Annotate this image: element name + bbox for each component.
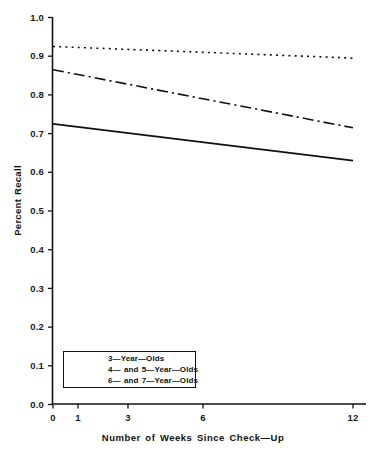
x-axis-title: Number of Weeks Since Check—Up: [0, 432, 386, 443]
legend-item-6-and-7-year-olds: 6— and 7—Year—Olds: [64, 375, 197, 386]
x-tick-label: 0: [41, 412, 65, 423]
legend-label: 4— and 5—Year—Olds: [108, 365, 198, 374]
series-line-4-and-5-year-olds: [53, 70, 353, 128]
plot-area: [0, 0, 386, 459]
chart-figure: 1.0 0.9 0.8 0.7 0.6 0.5 0.4 0.3 0.2 0.1 …: [0, 0, 386, 459]
y-axis-title: Percent Recall: [12, 156, 23, 246]
series-line-3-year-olds: [53, 124, 353, 161]
legend-label: 3—Year—Olds: [108, 354, 164, 363]
legend-label: 6— and 7—Year—Olds: [108, 376, 198, 385]
y-tick-label: 0.9: [18, 50, 44, 61]
legend: 3—Year—Olds 4— and 5—Year—Olds 6— and 7—…: [63, 351, 196, 388]
y-tick-label: 0.8: [18, 89, 44, 100]
x-tick-label: 3: [116, 412, 140, 423]
y-tick-label: 0.1: [18, 360, 44, 371]
y-tick-label: 1.0: [18, 12, 44, 23]
x-tick-label: 1: [66, 412, 90, 423]
legend-item-4-and-5-year-olds: 4— and 5—Year—Olds: [64, 364, 197, 375]
y-tick-label: 0.2: [18, 321, 44, 332]
series-line-6-and-7-year-olds: [53, 47, 353, 59]
x-tick-label: 6: [191, 412, 215, 423]
x-tick-label: 12: [341, 412, 365, 423]
y-tick-label: 0.0: [18, 399, 44, 410]
y-tick-label: 0.4: [18, 244, 44, 255]
y-tick-label: 0.3: [18, 283, 44, 294]
legend-item-3-year-olds: 3—Year—Olds: [64, 353, 197, 364]
y-tick-label: 0.7: [18, 128, 44, 139]
